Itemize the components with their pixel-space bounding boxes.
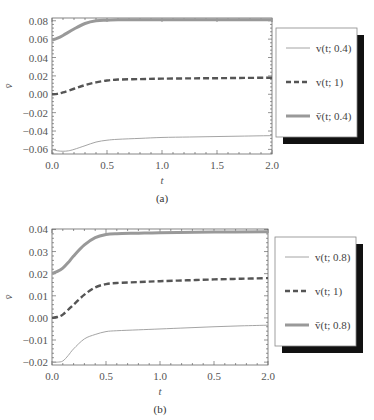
x-tick-label: 0.0 xyxy=(45,159,59,171)
series-line xyxy=(52,20,272,40)
y-tick-label: −0.04 xyxy=(23,125,49,137)
chart-a-svg: 0.00.51.01.52.00.080.060.040.020.00−0.02… xyxy=(0,0,374,210)
y-tick-label: 0.04 xyxy=(29,223,49,235)
x-tick-label: 0.0 xyxy=(45,370,59,382)
legend-label: v̄(t; 0.8) xyxy=(315,319,351,332)
chart-b-svg: 0.00.51.00.52.00.040.030.020.010.00−0.01… xyxy=(0,210,374,420)
legend-label: v(t; 0.8) xyxy=(315,251,351,264)
x-tick-label: 2.0 xyxy=(265,159,279,171)
x-tick-label: 0.5 xyxy=(207,370,221,382)
series-line xyxy=(52,325,268,362)
legend-label: v(t; 1) xyxy=(315,285,343,298)
series-line xyxy=(52,78,272,95)
y-tick-label: 0.06 xyxy=(29,33,49,45)
x-tick-label: 2.0 xyxy=(261,370,275,382)
plot-frame xyxy=(52,229,268,365)
y-tick-label: 0.03 xyxy=(29,246,49,258)
legend-label: v(t; 0.4) xyxy=(316,42,352,55)
x-tick-label: 0.5 xyxy=(99,370,113,382)
legend-label: v(t; 1) xyxy=(316,76,344,89)
y-tick-label: 0.02 xyxy=(29,70,48,82)
figure-caption: (a) xyxy=(156,192,169,205)
y-tick-label: 0.08 xyxy=(29,15,49,27)
x-axis-label: t xyxy=(158,385,162,397)
y-axis-label: v̄ xyxy=(2,83,14,88)
series-line xyxy=(52,136,272,152)
series-line xyxy=(52,232,268,274)
y-tick-label: −0.06 xyxy=(23,143,49,155)
y-tick-label: −0.02 xyxy=(23,356,48,368)
y-axis-label: v̄ xyxy=(2,294,14,299)
y-tick-label: −0.02 xyxy=(23,107,48,119)
y-tick-label: 0.02 xyxy=(29,268,48,280)
legend-label: v̄(t; 0.4) xyxy=(316,110,352,123)
series-line xyxy=(52,278,268,318)
x-tick-label: 1.5 xyxy=(210,159,224,171)
figure-caption: (b) xyxy=(154,403,167,416)
x-tick-label: 0.5 xyxy=(100,159,114,171)
plot-frame xyxy=(52,18,272,154)
x-tick-label: 1.0 xyxy=(155,159,169,171)
chart-panel-a: 0.00.51.01.52.00.080.060.040.020.00−0.02… xyxy=(0,0,374,210)
chart-panel-b: 0.00.51.00.52.00.040.030.020.010.00−0.01… xyxy=(0,210,374,420)
x-axis-label: t xyxy=(160,174,164,186)
y-tick-label: 0.00 xyxy=(29,312,49,324)
y-tick-label: −0.01 xyxy=(23,334,48,346)
y-tick-label: 0.01 xyxy=(29,290,48,302)
y-tick-label: 0.04 xyxy=(29,52,49,64)
y-tick-label: 0.00 xyxy=(29,88,49,100)
x-tick-label: 1.0 xyxy=(153,370,167,382)
